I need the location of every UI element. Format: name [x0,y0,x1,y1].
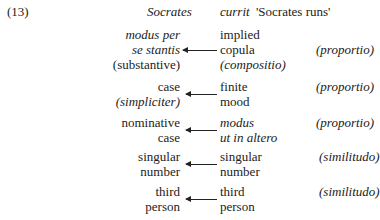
verb-currit: currit [220,4,250,19]
row1-right-line0: finite [220,79,247,94]
row0-relation: (proportio) [316,42,374,57]
row3-right-line1: number [220,164,260,179]
row3-relation: (similitudo) [319,149,380,164]
row3-left-line1: number [140,164,180,179]
row1-left-line1: (simpliciter) [116,94,180,109]
row4-left-line0: third [155,184,180,199]
row0-left-line2: (substantive) [113,57,180,72]
arrow-left-icon [183,50,217,51]
row3-right-line0: singular [220,149,262,164]
row2-left-line0: nominative [122,115,181,130]
row2-right-line1: ut in altero [220,130,277,145]
subject-socrates: Socrates [147,4,192,19]
row1-left-line0: case [158,79,180,94]
row4-relation: (similitudo) [319,184,380,199]
row1-right-line1: mood [220,94,250,109]
row4-right-line1: person [220,199,255,214]
row2-relation: (proportio) [316,115,374,130]
row0-right-line2: (compositio) [220,57,286,72]
row0-left-line0: modus per [125,27,180,42]
row0-left-line1: se stantis [132,42,180,57]
row1-relation: (proportio) [316,79,374,94]
arrow-left-icon [186,94,217,95]
arrow-left-icon [186,130,217,131]
row4-right-line0: third [220,184,245,199]
gloss: 'Socrates runs' [256,4,330,19]
row4-left-line1: person [145,199,180,214]
row2-left-line1: case [158,130,180,145]
row2-right-line0: modus [220,115,254,130]
arrow-left-icon [186,164,217,165]
arrow-left-icon [186,199,217,200]
row0-right-line1: copula [220,42,255,57]
example-number: (13) [7,4,29,19]
row0-right-line0: implied [220,27,260,42]
row3-left-line0: singular [138,149,180,164]
